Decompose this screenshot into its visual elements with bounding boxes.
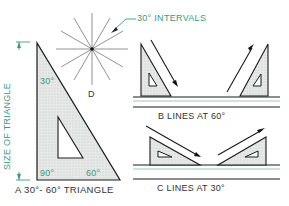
label-angle-90: 90° bbox=[40, 168, 55, 178]
b-right-triangle bbox=[240, 44, 268, 96]
label-angle-30: 30° bbox=[40, 76, 55, 86]
intervals-leader-arrow bbox=[114, 19, 136, 30]
caption-a: A 30°- 60° TRIANGLE bbox=[15, 184, 114, 195]
triangle-30-60 bbox=[37, 43, 120, 180]
label-30-intervals: 30° INTERVALS bbox=[137, 13, 206, 23]
label-d: D bbox=[88, 89, 95, 99]
caption-c: C LINES AT 30° bbox=[157, 183, 225, 193]
label-size-of-triangle: SIZE OF TRIANGLE bbox=[2, 83, 12, 170]
b-left-triangle bbox=[141, 44, 171, 96]
size-dimension-line bbox=[16, 42, 30, 180]
label-angle-60: 60° bbox=[86, 168, 101, 178]
starburst-center bbox=[90, 47, 94, 51]
caption-b: B LINES AT 60° bbox=[158, 111, 226, 121]
